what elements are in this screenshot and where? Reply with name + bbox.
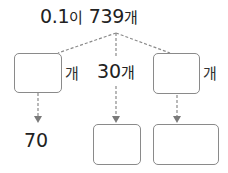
right-unit-label: 개 — [203, 62, 217, 83]
title-unit: 개 — [124, 9, 138, 27]
left-result-value: 70 — [24, 129, 48, 151]
middle-unit: 개 — [121, 64, 135, 82]
middle-value-label: 30개 — [97, 60, 135, 82]
title-particle: 이 — [69, 9, 83, 27]
middle-result-box[interactable] — [93, 124, 141, 165]
title-number: 0.1 — [40, 5, 69, 27]
left-answer-box[interactable] — [14, 53, 62, 93]
right-answer-box[interactable] — [153, 53, 200, 94]
left-unit-label: 개 — [65, 62, 79, 83]
right-result-box[interactable] — [153, 124, 219, 165]
title-count: 739 — [89, 5, 124, 27]
middle-value: 30 — [97, 60, 121, 82]
problem-title: 0.1이 739개 — [40, 5, 138, 27]
